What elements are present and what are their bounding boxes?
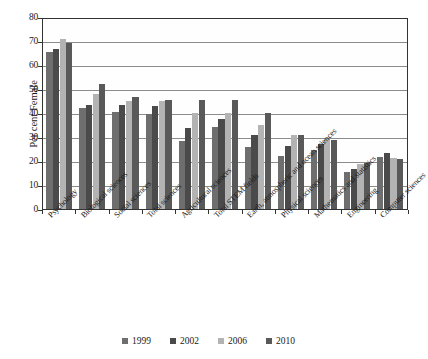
legend-item[interactable]: 2006 [218,336,247,346]
legend-label: 2010 [276,336,295,346]
y-axis-tick-label: 10 [12,181,38,191]
legend-swatch-icon [218,338,224,344]
y-axis-tick-label: 40 [12,109,38,119]
bar [212,127,218,209]
legend-item[interactable]: 1999 [122,336,151,346]
legend-item[interactable]: 2010 [266,336,295,346]
y-axis-tick-label: 80 [12,13,38,23]
legend-swatch-icon [266,338,272,344]
bar [79,108,85,209]
legend-label: 1999 [132,336,151,346]
legend-swatch-icon [170,338,176,344]
chart-legend: 1999200220062010 [0,336,417,346]
bar [218,119,224,209]
y-axis-tick-label: 30 [12,133,38,143]
bar [377,157,383,209]
x-axis-category-labels: PsychologyBiological sciencesSocial scie… [0,212,417,327]
bar-group [43,19,76,209]
bar [152,106,158,209]
bar-group [374,19,407,209]
legend-label: 2006 [228,336,247,346]
y-axis-ticks: 01020304050607080 [0,18,42,210]
legend-label: 2002 [180,336,199,346]
bar [119,105,125,210]
bar [112,112,118,209]
bar [46,52,52,209]
y-axis-tick-label: 60 [12,61,38,71]
y-axis-tick-label: 70 [12,37,38,47]
bar [60,39,66,209]
bar-group [175,19,208,209]
bar [93,94,99,209]
bar [185,128,191,209]
bar [53,49,59,209]
bar [179,141,185,209]
bar-group [76,19,109,209]
legend-swatch-icon [122,338,128,344]
legend-item[interactable]: 2002 [170,336,199,346]
bar [86,105,92,210]
bar [146,114,152,209]
y-axis-tick-label: 20 [12,157,38,167]
y-axis-tick-label: 50 [12,85,38,95]
bar [66,43,72,209]
